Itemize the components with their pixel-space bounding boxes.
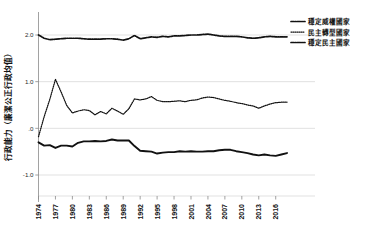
y-tick-label: .0: [28, 125, 34, 132]
y-tick-label: 2.0: [25, 31, 34, 38]
chart-container: 2.01.0.0-1.0 197419771980198319861989199…: [0, 0, 365, 239]
x-tick-label: 2004: [205, 204, 212, 220]
y-axis-label-group: 行政能力（廉潔公正行政均值）: [3, 49, 13, 162]
x-tick-label: 1998: [171, 204, 178, 220]
x-tick-label: 2013: [255, 204, 262, 220]
x-tick-label: 1983: [86, 204, 93, 220]
x-tick-label: 1974: [35, 204, 42, 220]
x-tick-label: 1989: [120, 204, 127, 220]
legend: 穩定威權國家民主轉型國家穩定民主國家: [291, 17, 350, 47]
x-tick-label: 2007: [221, 204, 228, 220]
x-tick-label: 2010: [238, 204, 245, 220]
x-tick-label: 1992: [137, 204, 144, 220]
line-chart: 2.01.0.0-1.0 197419771980198319861989199…: [0, 0, 365, 239]
y-tick-label: 1.0: [25, 78, 34, 85]
legend-label-1: 民主轉型國家: [308, 28, 350, 37]
x-tick-label: 1995: [154, 204, 161, 220]
x-tick-label: 1977: [52, 204, 59, 220]
x-tick-label: 2016: [272, 204, 279, 220]
legend-label-0: 穩定威權國家: [307, 17, 350, 26]
y-axis-label: 行政能力（廉潔公正行政均值）: [3, 49, 13, 162]
y-tick-label: -1.0: [23, 171, 34, 178]
x-tick-label: 1986: [103, 204, 110, 220]
x-tick-label: 1980: [69, 204, 76, 220]
x-tick-label: 2001: [188, 204, 195, 220]
legend-label-2: 穩定民主國家: [307, 38, 350, 47]
